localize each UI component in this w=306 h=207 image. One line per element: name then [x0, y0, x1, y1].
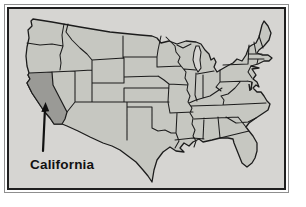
- figure-page: California: [0, 0, 306, 207]
- california-label: California: [30, 157, 95, 172]
- us-map: California: [0, 0, 306, 207]
- california-arrow: [43, 108, 45, 151]
